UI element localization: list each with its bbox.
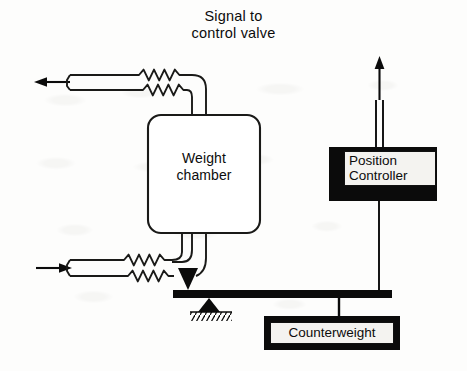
signal-line: [375, 56, 385, 147]
outlet-pipe-top: [34, 70, 206, 115]
fulcrum-triangle: [198, 298, 220, 312]
balance-beam: [173, 290, 392, 298]
fulcrum-assembly: [190, 298, 232, 321]
weight-chamber-label-line-2: chamber: [152, 167, 256, 184]
signal-caption: Signal to control valve: [0, 8, 467, 42]
weight-chamber-label-line-1: Weight: [152, 150, 256, 167]
counterweight-label: Counterweight: [270, 322, 394, 344]
diagram-canvas: Signal to control valve Weight chamber P…: [0, 0, 467, 371]
outlet-arrow-icon: [34, 77, 70, 87]
weight-chamber-label: Weight chamber: [152, 150, 256, 183]
position-controller-label-line-1: Position: [349, 153, 432, 168]
position-controller-label: Position Controller: [344, 151, 436, 186]
load-knife-edge: [178, 268, 198, 290]
signal-caption-line-2: control valve: [0, 25, 467, 42]
position-controller-label-line-2: Controller: [349, 168, 432, 183]
inlet-pipe-bottom: [36, 233, 182, 281]
signal-caption-line-1: Signal to: [0, 8, 467, 25]
chamber-outlet-downcomer: [172, 233, 206, 290]
signal-arrow-icon: [375, 56, 385, 100]
ground-hatch: [190, 312, 232, 321]
